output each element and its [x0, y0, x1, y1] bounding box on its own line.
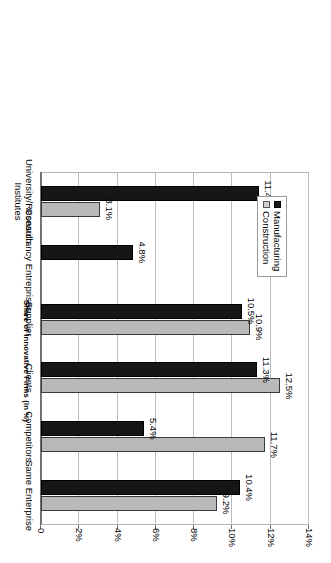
category-label: Same Enterprise [24, 460, 35, 531]
bar-construction [41, 320, 250, 335]
legend-swatch-construction [263, 201, 270, 208]
bar-chart: 02%4%6%8%10%12%14% 11.4%3.1%4.8%10.5%10.… [0, 0, 331, 563]
category-label-line: Same Enterprise [24, 460, 35, 531]
bar-groups [0, 0, 331, 563]
bar-manufacturing [41, 245, 133, 260]
bar-value-label: 3.1% [104, 199, 115, 221]
legend-item-construction: Construction [261, 201, 272, 271]
bar-manufacturing [41, 362, 257, 377]
legend-item-manufacturing: Manufacturing [272, 201, 283, 271]
category-label-line: Institutes [13, 159, 24, 244]
bar-value-label: 5.4% [148, 418, 159, 440]
bar-manufacturing [41, 480, 240, 495]
bar-value-label: 10.9% [254, 314, 265, 341]
bar-value-label: 11.3% [261, 357, 272, 383]
category-label-line: Consultancy Entreprises [24, 209, 35, 312]
bar-value-label: 12.5% [284, 372, 295, 399]
bar-value-label: 4.8% [137, 241, 148, 263]
bar-manufacturing [41, 304, 242, 319]
bar-construction [41, 202, 100, 217]
rotated-chart-stage: 02%4%6%8%10%12%14% 11.4%3.1%4.8%10.5%10.… [0, 0, 331, 563]
bar-construction [41, 496, 217, 511]
bar-value-label: 10.4% [244, 474, 255, 501]
bar-manufacturing [41, 421, 144, 436]
bar-manufacturing [41, 186, 259, 201]
bar-value-label: 11.7% [269, 432, 280, 458]
value-axis-title: Share of Innovative Firms (in %) [22, 300, 31, 422]
chart-legend: Manufacturing Construction [257, 196, 287, 277]
legend-label-manufacturing: Manufacturing [272, 211, 283, 271]
bar-value-label: 9.2% [221, 493, 232, 515]
category-label: Consultancy Entreprises [24, 209, 35, 312]
legend-label-construction: Construction [261, 211, 272, 264]
bar-construction [41, 378, 280, 393]
legend-swatch-manufacturing [274, 201, 281, 208]
